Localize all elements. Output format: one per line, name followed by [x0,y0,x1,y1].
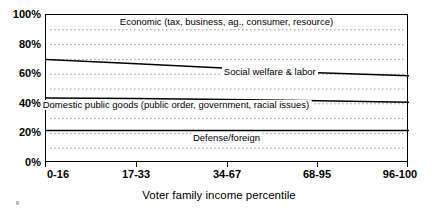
x-axis-tick-label-0: 0-16 [47,169,69,180]
y-axis-tick-label-80: 80% [0,39,41,50]
y-axis-tick-label-20: 20% [0,127,41,138]
x-axis-tick-label-3: 68-95 [303,169,331,180]
x-tick-3 [317,162,318,167]
y-axis-tick-label-60: 60% [0,68,41,79]
x-axis-labels: 0-16 17-33 34-67 68-95 96-100 [0,169,438,185]
scan-speck [16,201,19,205]
x-tick-4 [407,162,408,167]
y-axis-tick-label-100: 100% [0,9,41,20]
y-axis-tick-label-40: 40% [0,98,41,109]
plot-area: Economic (tax, business, ag., consumer, … [45,14,408,162]
y-axis-tick-label-0: 0% [0,157,41,168]
x-axis-tick-label-1: 17-33 [122,169,150,180]
x-tick-0 [45,162,46,167]
x-axis-tick-label-2: 34-67 [213,169,241,180]
x-axis-tick-label-4: 96-100 [383,169,417,180]
band-label-economic: Economic (tax, business, ag., consumer, … [118,17,335,27]
band-label-social-welfare: Social welfare & labor [222,67,318,77]
x-tick-2 [227,162,228,167]
x-tick-1 [136,162,137,167]
band-label-domestic-public-goods: Domestic public goods (public order, gov… [41,100,312,110]
band-label-defense-foreign: Defense/foreign [191,133,262,143]
x-axis-title: Voter family income percentile [0,190,438,202]
chart-figure: 100% 80% 60% 40% 20% 0% [0,0,438,212]
